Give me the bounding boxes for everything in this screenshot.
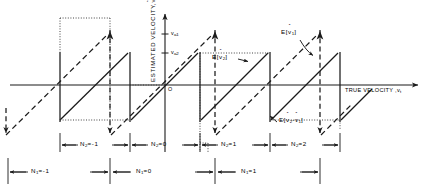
arrow-e-v2 <box>238 59 248 62</box>
x-axis-title: TRUE VELOCITY ,vt <box>345 88 401 94</box>
n2-band-label-2: N2=1 <box>221 141 237 147</box>
n1-band-ruler <box>8 158 320 184</box>
n2-2-sub: 2 <box>226 143 228 148</box>
y-axis-symbol: v <box>150 0 156 3</box>
e-v2-suffix: ] <box>225 53 227 60</box>
y-axis-title-text: ESTIMATED VELOCITY, <box>150 3 156 82</box>
n2-2-val: 1 <box>233 140 237 147</box>
e-diff-prefix: E[ <box>279 116 286 123</box>
n2-band-label-3: N2=2 <box>291 141 307 147</box>
e-diff-suffix: ] <box>301 116 303 123</box>
n2-1-val: 0 <box>163 140 167 147</box>
n2-0-val: -1 <box>92 140 99 147</box>
y-tick-label-va1: va1 <box>171 31 179 36</box>
e-v2-sub: 2 <box>223 56 225 61</box>
x-axis-title-text: TRUE VELOCITY , <box>345 87 397 93</box>
n2-band-label-1: N2=0 <box>151 141 167 147</box>
annotation-e-v1: E[v1] <box>281 29 297 35</box>
s-ramp-4 <box>271 53 338 120</box>
n2-1-sub: 2 <box>156 143 158 148</box>
n1-2-val: 1 <box>253 167 257 174</box>
n1-band-label-2: N1=1 <box>241 168 257 174</box>
arrow-e-v1 <box>300 40 313 56</box>
sawtooth-diagram <box>0 0 423 188</box>
y-axis-title: ESTIMATED VELOCITY,v <box>150 0 158 82</box>
series-e-v2-solid <box>60 52 372 122</box>
e-diff-sub-a: 2 <box>290 119 292 124</box>
origin-label: O <box>168 87 172 92</box>
annotation-e-v2: E[v2] <box>212 54 228 60</box>
n1-1-sub: 1 <box>141 170 143 175</box>
e-v1-suffix: ] <box>294 28 296 35</box>
n1-0-sub: 1 <box>36 170 38 175</box>
s-ramp-1 <box>60 53 128 120</box>
e-v1-sub: 1 <box>292 31 294 36</box>
va2-sub: a2 <box>174 51 179 56</box>
n2-band-label-0: N2=-1 <box>80 141 98 147</box>
x-axis-symbol-sub: t <box>400 89 401 94</box>
s-ramp-3 <box>201 53 268 120</box>
n1-band-label-1: N1=0 <box>136 168 152 174</box>
annotation-e-v2-v1: E[v2-v1] <box>279 117 303 123</box>
n2-0-sub: 2 <box>85 143 87 148</box>
y-tick-label-va2: va2 <box>171 50 179 55</box>
n1-0-val: -1 <box>43 167 50 174</box>
n1-band-label-0: N1=-1 <box>31 168 49 174</box>
annotation-arrows <box>238 40 313 122</box>
n1-2-sub: 1 <box>246 170 248 175</box>
ramp-4 <box>321 104 352 135</box>
n2-3-sub: 2 <box>296 143 298 148</box>
e-v2-prefix: E[ <box>212 53 219 60</box>
e-v1-prefix: E[ <box>281 28 288 35</box>
e-diff-sub-b: 1 <box>299 119 301 124</box>
figure-root: ESTIMATED VELOCITY,v va1 va2 O TRUE VELO… <box>0 0 423 188</box>
n1-1-val: 0 <box>148 167 152 174</box>
n2-3-val: 2 <box>303 140 307 147</box>
va1-sub: a1 <box>174 32 179 37</box>
s-ramp-5 <box>341 89 372 120</box>
